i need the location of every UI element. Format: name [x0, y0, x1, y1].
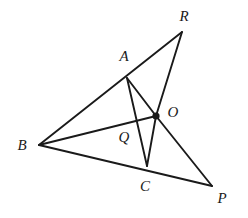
markers-group	[152, 112, 159, 119]
vertex-label-p: P	[217, 191, 226, 206]
geometry-canvas	[0, 0, 248, 218]
geometry-figure: ABCOPQR	[0, 0, 248, 218]
vertex-label-c: C	[140, 179, 150, 194]
vertex-label-o: O	[168, 105, 179, 120]
vertex-label-b: B	[17, 138, 26, 153]
point-O-dot	[152, 112, 159, 119]
segment-B-P-through-C	[39, 145, 212, 186]
vertex-label-q: Q	[119, 130, 130, 145]
vertex-label-r: R	[179, 9, 188, 24]
segment-C-O	[147, 116, 156, 166]
vertex-label-a: A	[119, 49, 128, 64]
